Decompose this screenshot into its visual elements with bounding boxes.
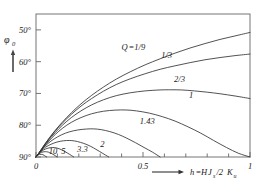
x-axis-title-H: H	[200, 167, 208, 177]
y-axis-title-symbol: φ	[4, 34, 10, 45]
x-axis-title-K-subscript: u	[234, 173, 237, 179]
curve-label-1-3: 1/3	[161, 50, 172, 60]
chart-svg: 00.51 50°60°70°80°90° Q=1/91/32/311.4323…	[0, 0, 265, 183]
x-tick-label: 0.5	[138, 161, 149, 171]
y-tick-label: 60°	[19, 57, 32, 67]
curve-label-5: 5	[61, 146, 65, 156]
curve-label-2: 2	[100, 139, 105, 149]
y-tick-label: 80°	[19, 120, 32, 130]
curve-label-q: Q	[122, 42, 128, 52]
y-tick-label: 90°	[19, 152, 32, 162]
x-axis-title-slash-two: /2	[216, 167, 224, 177]
y-tick-label: 50°	[19, 25, 32, 35]
x-axis-title-h: h	[190, 167, 194, 177]
curve-label-1-43: 1.43	[140, 116, 155, 126]
curve-label-3-3: 3.3	[76, 144, 88, 154]
curve-label-1: 1	[189, 90, 193, 100]
curve-label-10: 10	[49, 146, 58, 156]
figure-container: 00.51 50°60°70°80°90° Q=1/91/32/311.4323…	[0, 0, 265, 183]
x-tick-label: 1	[248, 161, 252, 171]
chart-background	[0, 0, 265, 183]
curve-label-q-value: =1/9	[129, 42, 146, 52]
curve-label-2-3: 2/3	[174, 74, 185, 84]
y-tick-label: 70°	[19, 88, 32, 98]
